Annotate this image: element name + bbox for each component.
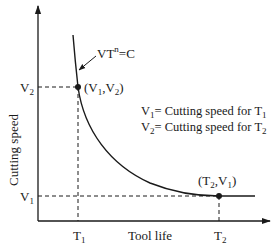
x-axis-label: Tool life [128,228,172,243]
point-v1-v2 [75,84,81,90]
legend-v2: V2= Cutting speed for T2 [141,120,267,136]
point-t2-v1 [216,193,222,199]
x-tick-t1: T1 [73,228,85,245]
legend-v1: V1= Cutting speed for T1 [141,104,267,120]
point-label-v1-v2: (V1,V2) [84,80,124,97]
point-label-t2-v1: (T2,V1) [198,173,236,190]
y-axis-label: Cutting speed [6,114,21,186]
equation-label: VTn=C [97,44,135,61]
equation-pointer-arrow [79,56,96,70]
tool-life-diagram: VTn=C (V1,V2) (T2,V1) V2 V1 Cutting spee… [0,0,278,247]
y-tick-v1: V1 [20,189,34,206]
y-tick-v2: V2 [20,80,34,97]
x-tick-t2: T2 [214,228,226,245]
